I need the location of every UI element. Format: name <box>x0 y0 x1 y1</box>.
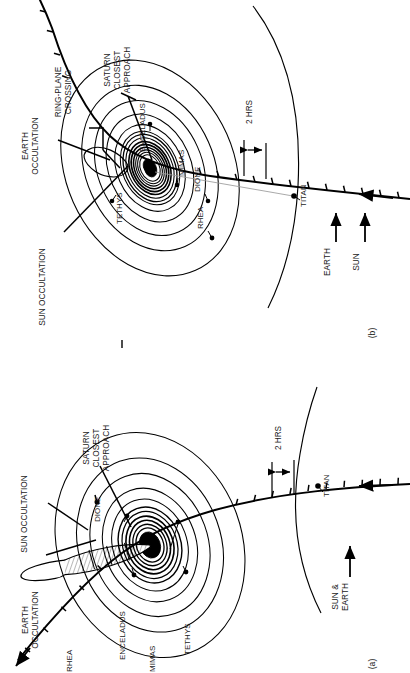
label-titan-b: TITAN <box>299 184 308 207</box>
label-mimas-b: MIMAS <box>177 150 186 176</box>
panel-b-identifier: (b) <box>367 328 377 339</box>
label-mimas-a: MIMAS <box>148 646 157 672</box>
label-saturn-closest-approach-b-line2: CLOSEST <box>112 51 122 90</box>
label-titan-a: TITAN <box>322 474 331 497</box>
sun-arrow-b-label: SUN <box>351 253 361 271</box>
label-rhea-a: RHEA <box>65 649 74 672</box>
label-tethys-a: TETHYS <box>183 623 192 655</box>
label-saturn-closest-approach-b-line1: SATURN <box>102 53 112 87</box>
trajectory-direction-arrow-a <box>359 485 393 486</box>
label-saturn-closest-approach-a-line3: APPROACH <box>101 425 111 472</box>
label-earth-occultation-a-line1: EARTH <box>20 606 30 634</box>
scale-bar-a-label: 2 HRS <box>274 425 283 450</box>
label-rhea-b: RHEA <box>196 206 205 229</box>
label-dione-a: DIONE <box>93 497 102 522</box>
saturn-encounter-figure: 2 HRS <box>0 0 410 673</box>
label-ring-plane-crossing-line1: RING-PLANE <box>53 66 63 117</box>
panel-a-identifier: (a) <box>367 659 377 670</box>
sun-earth-arrow-a-line1: SUN & <box>330 584 340 610</box>
label-enceladus-b: ENCELADUS <box>138 103 147 152</box>
figure-canvas: 2 HRS <box>0 0 410 673</box>
label-saturn-closest-approach-a-line1: SATURN <box>81 431 91 465</box>
label-ring-plane-crossing-line2: CROSSING <box>63 70 73 114</box>
label-tethys-b: TETHYS <box>115 192 124 224</box>
label-earth-occultation-b-line1: EARTH <box>20 132 30 160</box>
label-dione-b: DIONE <box>193 167 202 192</box>
label-saturn-closest-approach-a-line2: CLOSEST <box>91 429 101 468</box>
earth-arrow-b-label: EARTH <box>322 248 332 276</box>
label-enceladus-a: ENCELADUS <box>118 611 127 660</box>
scale-bar-b-label: 2 HRS <box>245 99 254 124</box>
label-earth-occultation-b-line2: OCCULTATION <box>30 117 40 175</box>
label-saturn-closest-approach-b-line3: APPROACH <box>122 47 132 94</box>
sun-earth-arrow-a-line2: EARTH <box>340 583 350 611</box>
moon-dot-mimas-dark-a <box>176 520 181 525</box>
label-sun-occultation-b: SUN OCCULTATION <box>37 248 47 325</box>
label-sun-occultation-a: SUN OCCULTATION <box>19 475 29 552</box>
label-earth-occultation-a-line2: OCCULTATION <box>30 591 40 649</box>
